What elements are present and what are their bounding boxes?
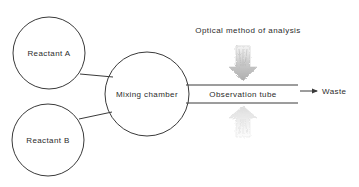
waste-label: Waste (322, 87, 347, 96)
stopped-flow-apparatus-diagram: Reactant A Reactant B Mixing chamber Obs… (0, 0, 359, 187)
transmitted-beam-icon (229, 106, 257, 137)
reactant-a-label: Reactant A (27, 49, 70, 58)
optical-method-label: Optical method of analysis (195, 26, 301, 35)
connector-reactant-a-to-chamber (80, 74, 113, 77)
mixing-chamber-label: Mixing chamber (116, 90, 178, 99)
observation-tube-label: Observation tube (209, 90, 276, 99)
waste-arrow-head (312, 88, 318, 93)
incident-beam-icon (229, 46, 257, 81)
diagram-canvas: Reactant A Reactant B Mixing chamber Obs… (0, 0, 359, 187)
reactant-b-label: Reactant B (26, 136, 70, 145)
connector-reactant-b-to-chamber (79, 112, 112, 119)
